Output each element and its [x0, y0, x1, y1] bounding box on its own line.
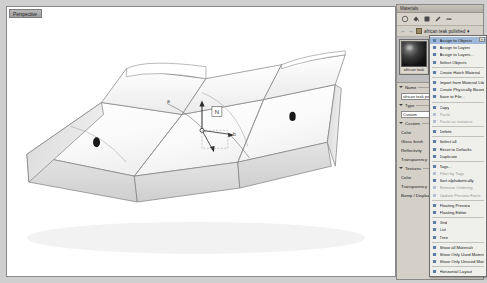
menu-item-assign-to-layers[interactable]: Assign to Layers...: [430, 51, 486, 58]
menu-item-label: Tree: [440, 235, 448, 240]
reset-icon: [432, 146, 438, 152]
menu-item-label: Floating Preview: [440, 203, 471, 208]
prop-row-label: Gloss finish: [401, 139, 429, 144]
breadcrumb-dropdown-icon[interactable]: ▾: [467, 29, 470, 34]
menu-item-reset-to-defaults[interactable]: Reset to Defaults: [430, 145, 486, 152]
prop-row-label: Bump / Displacement: [401, 193, 429, 198]
assign-layers-icon: [432, 45, 438, 51]
menu-item-save-to-file[interactable]: Save to File...: [430, 93, 486, 100]
viewport-scene[interactable]: N: [7, 7, 395, 277]
menu-item-floating-editor[interactable]: Floating Editor: [430, 209, 486, 216]
filter-tags-icon: [432, 171, 438, 177]
menu-separator: [432, 102, 484, 103]
save-icon: [432, 94, 438, 100]
import-icon: [432, 80, 438, 86]
menu-item-create-physically-based[interactable]: Create Physically Based: [430, 86, 486, 93]
prop-row-label: Color: [401, 175, 429, 180]
menu-item-show-only-used-materials[interactable]: Show Only Used Materials: [430, 251, 486, 258]
menu-item-label: Show Only Unused Materials: [440, 259, 485, 264]
chevron-down-icon: [399, 167, 403, 171]
show-all-icon: [432, 245, 438, 251]
menu-item-assign-to-objects[interactable]: Assign to Objects: [430, 37, 486, 44]
duplicate-icon: [432, 153, 438, 159]
breadcrumb-path[interactable]: african teak polished: [424, 29, 465, 34]
menu-item-show-only-unused-materials[interactable]: Show Only Unused Materials: [430, 258, 486, 265]
menu-item-paste: Paste: [430, 111, 486, 118]
menu-item-duplicate[interactable]: Duplicate: [430, 153, 486, 160]
menu-separator: [432, 77, 484, 78]
context-menu-close-button[interactable]: ×: [479, 37, 485, 42]
menu-item-update-preview-fonts: Update Preview Fonts: [430, 192, 486, 199]
menu-item-label: Select all: [440, 139, 457, 144]
menu-item-select-objects[interactable]: Select Objects: [430, 59, 486, 66]
prop-section-label: Type: [405, 103, 414, 108]
menu-separator: [432, 126, 484, 127]
prop-row-label: Color: [401, 130, 429, 135]
delete-icon: [432, 129, 438, 135]
menu-separator: [432, 136, 484, 137]
delete-material-icon[interactable]: [444, 15, 453, 24]
menu-item-label: Horizontal Layout: [440, 269, 473, 274]
breadcrumb-back-icon[interactable]: ←: [400, 28, 406, 34]
menu-separator: [432, 67, 484, 68]
prop-row-label: Transparency: [401, 184, 429, 189]
menu-item-assign-to-layers[interactable]: Assign to Layers: [430, 44, 486, 51]
menu-item-label: Assign to Layers: [440, 45, 471, 50]
menu-item-select-all[interactable]: Select all: [430, 138, 486, 145]
breadcrumb-forward-icon[interactable]: →: [408, 28, 414, 34]
materials-toolbar: [397, 13, 483, 26]
menu-item-label: Create Hatch Material: [440, 70, 481, 75]
menu-item-floating-preview[interactable]: Floating Preview: [430, 202, 486, 209]
menu-item-delete[interactable]: Delete: [430, 128, 486, 135]
menu-item-label: List: [440, 227, 447, 232]
show-unused-icon: [432, 259, 438, 265]
application-window: N a b Perspective Materials: [0, 0, 487, 283]
paint-bucket-icon[interactable]: [411, 15, 420, 24]
tags-icon: [432, 164, 438, 170]
tree-view-icon: [432, 234, 438, 240]
menu-item-tags[interactable]: Tags...: [430, 163, 486, 170]
menu-item-create-hatch-material[interactable]: Create Hatch Material: [430, 69, 486, 76]
edit-material-icon[interactable]: [433, 15, 442, 24]
model-hole-left: [93, 137, 100, 147]
select-objects-icon: [432, 59, 438, 65]
viewport-tab[interactable]: Perspective: [9, 9, 42, 18]
physically-based-icon: [432, 87, 438, 93]
menu-item-grid[interactable]: Grid: [430, 219, 486, 226]
menu-item-copy[interactable]: Copy: [430, 104, 486, 111]
new-material-icon[interactable]: [400, 15, 409, 24]
copy-icon: [432, 104, 438, 110]
grid-view-icon: [432, 220, 438, 226]
prop-section-label: Textures: [405, 166, 421, 171]
assign-layers-dialog-icon: [432, 52, 438, 58]
menu-item-import-from-material-library[interactable]: Import from Material Library: [430, 79, 486, 86]
remove-ordering-icon: [432, 185, 438, 191]
menu-item-tree[interactable]: Tree: [430, 234, 486, 241]
menu-item-label: Show Only Used Materials: [440, 252, 485, 257]
menu-item-label: Floating Editor: [440, 210, 467, 215]
menu-item-label: Paste: [440, 112, 451, 117]
material-name-label: african teak: [401, 67, 427, 73]
menu-item-remove-ordering: Remove Ordering: [430, 184, 486, 191]
menu-item-label: Duplicate: [440, 154, 457, 159]
material-preview-thumbnail: [401, 41, 427, 67]
menu-item-list[interactable]: List: [430, 226, 486, 233]
annotation-label-a: a: [167, 98, 170, 104]
materials-context-menu[interactable]: × Assign to ObjectsAssign to LayersAssig…: [429, 35, 487, 277]
menu-separator: [432, 161, 484, 162]
list-view-icon: [432, 227, 438, 233]
prop-row-label: Transparency: [401, 157, 429, 162]
menu-item-sort-alphabetically[interactable]: Sort alphabetically: [430, 177, 486, 184]
material-swatch-selected[interactable]: african teak: [399, 39, 429, 75]
menu-item-label: Paste as instance: [440, 119, 473, 124]
menu-item-label: Grid: [440, 220, 448, 225]
menu-item-horizontal-layout[interactable]: Horizontal Layout: [430, 268, 486, 275]
chevron-down-icon: [399, 104, 403, 108]
viewport-3d[interactable]: N a b Perspective: [6, 6, 396, 277]
menu-item-show-all-materials[interactable]: Show all Materials: [430, 244, 486, 251]
paste-icon: [432, 112, 438, 118]
gizmo-label-text: N: [215, 109, 219, 115]
assign-material-icon[interactable]: [422, 15, 431, 24]
menu-item-label: Assign to Layers...: [440, 52, 474, 57]
menu-item-paste-as-instance: Paste as instance: [430, 118, 486, 125]
